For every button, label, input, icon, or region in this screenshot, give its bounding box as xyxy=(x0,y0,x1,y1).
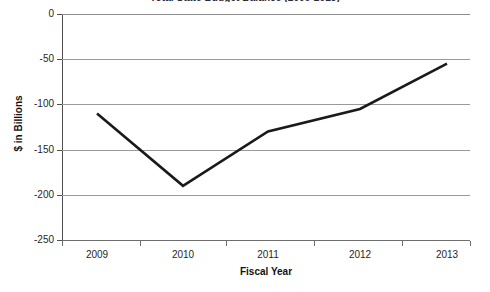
line-chart: Total State Budget Balance (2009-2013) $… xyxy=(0,0,490,292)
series-line-total-state-budget-balance xyxy=(97,64,447,186)
x-axis-title: Fiscal Year xyxy=(62,266,470,277)
series-layer xyxy=(0,0,490,292)
